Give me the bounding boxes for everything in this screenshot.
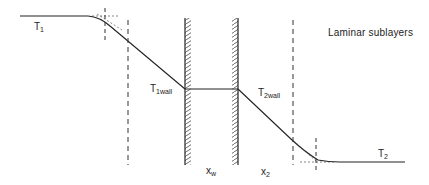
tangent-extrapolation-left bbox=[92, 14, 122, 30]
label-t1: T1 bbox=[34, 22, 44, 33]
temperature-profile-left bbox=[20, 16, 185, 89]
label-xw: xw bbox=[206, 166, 216, 177]
diagram-title: Laminar sublayers bbox=[328, 28, 413, 38]
label-t2: T2 bbox=[378, 149, 388, 160]
wall-right bbox=[232, 18, 238, 165]
tangent-extrapolation-right bbox=[294, 141, 335, 163]
label-x2: x2 bbox=[261, 167, 270, 178]
label-t1wall: T1wall bbox=[150, 84, 172, 95]
wall-left bbox=[185, 18, 191, 165]
label-t2wall: T2wall bbox=[258, 88, 280, 99]
